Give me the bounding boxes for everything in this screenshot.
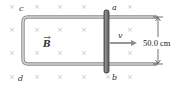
field-x-marker: ×	[127, 3, 133, 11]
corner-label-c: c	[19, 4, 24, 13]
field-x-marker: ×	[9, 73, 15, 81]
field-x-marker: ×	[34, 3, 40, 11]
rail-rod-diagram: × × × × × × × × × × × × × × × × × × × × …	[0, 0, 182, 87]
field-x-marker: ×	[105, 73, 111, 81]
field-x-marker: ×	[34, 49, 40, 57]
field-x-marker: ×	[127, 49, 133, 57]
magnetic-field-vector-label: B	[42, 36, 51, 49]
sliding-rod	[104, 10, 109, 73]
field-x-marker: ×	[81, 49, 87, 57]
field-x-marker: ×	[34, 26, 40, 34]
corner-label-d: d	[18, 74, 23, 83]
field-x-marker: ×	[57, 26, 63, 34]
field-x-marker: ×	[81, 73, 87, 81]
field-x-marker: ×	[127, 26, 133, 34]
separation-dimension-label: 50.0 cm	[143, 38, 171, 48]
velocity-label: v	[118, 31, 123, 40]
field-x-marker: ×	[81, 26, 87, 34]
field-x-marker: ×	[57, 49, 63, 57]
field-x-marker: ×	[9, 3, 15, 11]
rod-end-label-a: a	[112, 3, 117, 12]
velocity-arrow	[110, 40, 137, 46]
field-x-marker: ×	[9, 26, 15, 34]
rod-end-label-b: b	[112, 73, 117, 82]
field-x-marker: ×	[57, 3, 63, 11]
field-x-marker: ×	[57, 73, 63, 81]
field-x-marker: ×	[34, 73, 40, 81]
magnetic-field-markers: × × × × × × × × × × × × × × × × × × × × …	[9, 3, 133, 81]
field-x-marker: ×	[81, 3, 87, 11]
field-x-marker: ×	[127, 73, 133, 81]
field-x-marker: ×	[9, 49, 15, 57]
field-label: B	[42, 39, 51, 49]
